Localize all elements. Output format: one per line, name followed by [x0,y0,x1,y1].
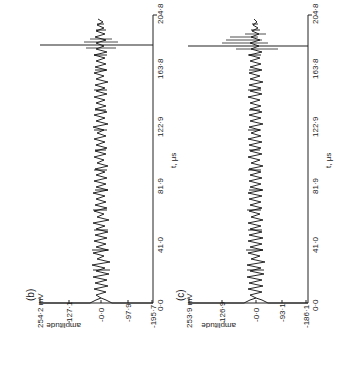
noise-dashes-b [92,24,110,270]
time-axis-label-c: t, μs [324,153,333,168]
spike-ringing-c [222,34,278,49]
time-tick-b: 122·9 [156,116,165,137]
time-tick-c: 81·9 [311,177,320,194]
time-tick-c: 122·9 [311,116,320,137]
amp-tick-top-b: 254·2 mV [36,293,45,328]
amp-tick-b: -97·9 [124,303,133,322]
time-tick-c: 204·8 [311,3,320,24]
amp-tick-c: -0·0 [252,307,261,322]
time-tick-b: 163·8 [156,58,165,79]
trace-baseline-c [189,298,308,303]
panel-label-b: (b) [25,289,36,301]
time-tick-b: 81·9 [156,177,165,194]
amp-axis-label-c: amplitude [201,321,236,330]
noise-dashes-c [246,24,264,270]
trace-baseline-b [40,298,153,303]
time-tick-c: 0·0 [311,299,320,311]
time-tick-c: 41·0 [311,236,320,253]
amp-axis-label-b: amplitude [46,321,81,330]
time-tick-b: 204·8 [156,3,165,24]
figure: (b) 254·2 mV 127·1 -0·0 -97·9 -195·7 amp… [0,0,350,370]
amp-tick-b: -0·0 [97,307,106,322]
amp-tick-top-c: 253·9 mV [185,293,194,328]
panel-c: (c) 253·9 mV 126·9 -0·0 -93·1 -186·1 amp… [175,3,333,330]
noise-trace-b [92,19,110,298]
time-axis-label-b: t, μs [169,153,178,168]
time-tick-b: 0·0 [156,299,165,311]
panel-b: (b) 254·2 mV 127·1 -0·0 -97·9 -195·7 amp… [25,3,178,330]
amp-tick-c: -186·1 [302,304,311,328]
time-tick-b: 41·0 [156,236,165,253]
noise-trace-c [247,19,265,298]
time-tick-c: 163·8 [311,58,320,79]
amp-tick-c: 126·9 [218,301,227,322]
amp-tick-b: 127·1 [65,301,74,322]
amp-tick-c: -93·1 [278,303,287,322]
